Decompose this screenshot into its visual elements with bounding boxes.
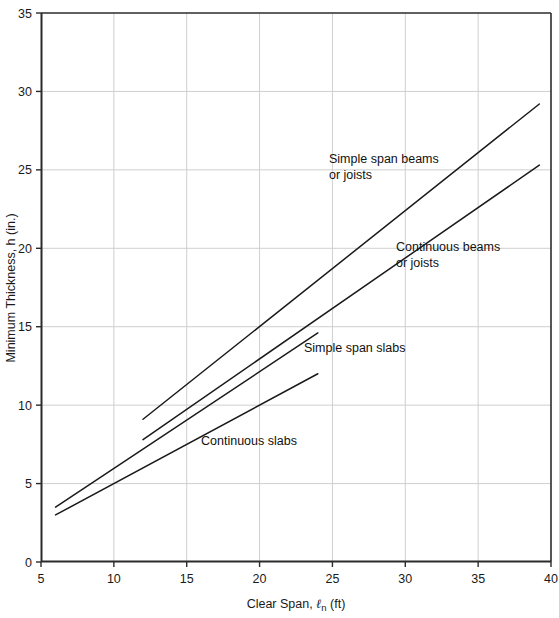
y-axis-tick-label: 5 (25, 477, 32, 491)
x-axis-tick-label: 20 (253, 572, 267, 586)
annotation-continuous-slabs-label: Continuous slabs (201, 434, 297, 448)
annotation-continuous-beams-line1: Continuous beams (396, 240, 500, 254)
y-axis-tick-label: 35 (18, 7, 32, 21)
x-axis-tick-label: 10 (107, 572, 121, 586)
x-axis-title: Clear Span, ℓn (ft) (247, 597, 346, 613)
x-axis-tick-label: 40 (544, 572, 558, 586)
figure-container: 05101520253035 510152025303540 Simple sp… (0, 0, 559, 618)
x-axis-tick-label: 25 (325, 572, 339, 586)
x-axis-tick-label: 5 (38, 572, 45, 586)
y-axis-tick-label: 20 (18, 242, 32, 256)
y-axis-ticks (36, 13, 41, 562)
x-axis-tick-label: 15 (180, 572, 194, 586)
x-axis-title-unit: (ft) (327, 597, 346, 611)
annotation-simple-span-beams-line2: or joists (329, 168, 372, 182)
y-axis-tick-label: 15 (18, 320, 32, 334)
minimum-thickness-vs-clear-span-chart: 05101520253035 510152025303540 Simple sp… (0, 0, 559, 618)
y-axis-tick-label: 0 (25, 556, 32, 570)
annotation-simple-span-beams-line1: Simple span beams (329, 152, 439, 166)
y-axis-title: Minimum Thickness, h (in.) (4, 213, 18, 362)
annotation-continuous-slabs: Continuous slabs (201, 434, 297, 448)
svg-text:Clear Span, ℓn (ft): Clear Span, ℓn (ft) (247, 597, 346, 613)
annotation-continuous-beams-line2: or joists (396, 256, 439, 270)
annotation-simple-span-slabs-label: Simple span slabs (304, 341, 405, 355)
x-axis-ticks (41, 562, 551, 567)
x-axis-tick-label: 30 (398, 572, 412, 586)
x-axis-tick-label: 35 (471, 572, 485, 586)
x-axis-title-main: Clear Span, (247, 597, 316, 611)
plot-background (41, 13, 551, 562)
y-axis-tick-label: 25 (18, 163, 32, 177)
y-axis-tick-label: 10 (18, 399, 32, 413)
y-axis-tick-label: 30 (18, 85, 32, 99)
x-axis-tick-labels: 510152025303540 (38, 572, 558, 586)
y-axis-tick-labels: 05101520253035 (18, 7, 32, 570)
annotation-simple-span-slabs: Simple span slabs (304, 341, 405, 355)
